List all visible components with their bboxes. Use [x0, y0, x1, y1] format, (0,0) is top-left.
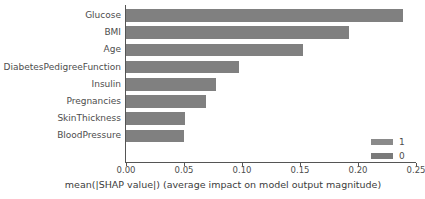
y-tick-label-insulin: Insulin: [0, 76, 121, 93]
x-tick-label-5: 0.25: [407, 165, 425, 175]
table-row: [126, 24, 416, 41]
table-row: [126, 7, 416, 24]
legend: 1 0: [371, 136, 417, 164]
legend-item-0[interactable]: 0: [371, 150, 417, 162]
legend-label-1: 1: [399, 138, 405, 147]
bar-bmi: [126, 26, 349, 39]
legend-swatch-1: [371, 139, 393, 145]
table-row: [126, 110, 416, 127]
legend-label-0: 0: [399, 152, 405, 161]
y-tick-label-diabetespedigreefunction: DiabetesPedigreeFunction: [0, 59, 121, 76]
x-tick-label-2: 0.10: [233, 165, 252, 175]
x-tick-label-4: 0.20: [349, 165, 368, 175]
table-row: [126, 93, 416, 110]
bar-bloodpressure: [126, 130, 184, 143]
bar-glucose: [126, 9, 403, 22]
y-tick-label-skinthickness: SkinThickness: [0, 110, 121, 127]
y-tick-label-age: Age: [0, 41, 121, 58]
bar-skinthickness: [126, 112, 185, 125]
x-axis-title-text: mean(|SHAP value|) (average impact on mo…: [65, 179, 381, 190]
table-row: [126, 41, 416, 58]
y-tick-label-glucose: Glucose: [0, 7, 121, 24]
bar-insulin: [126, 78, 216, 91]
legend-item-1[interactable]: 1: [371, 136, 417, 148]
x-tick-label-1: 0.05: [175, 165, 194, 175]
x-axis-tick-labels: 0.000.050.100.150.200.25: [0, 165, 424, 177]
y-tick-label-bmi: BMI: [0, 24, 121, 41]
table-row: [126, 76, 416, 93]
y-axis-tick-labels: Glucose BMI Age DiabetesPedigreeFunction…: [0, 7, 121, 162]
bar-age: [126, 44, 303, 57]
table-row: [126, 59, 416, 76]
y-tick-label-pregnancies: Pregnancies: [0, 93, 121, 110]
legend-swatch-0: [371, 153, 393, 159]
bar-pregnancies: [126, 95, 206, 108]
x-tick-label-3: 0.15: [291, 165, 310, 175]
x-axis-title: mean(|SHAP value|) (average impact on mo…: [0, 179, 424, 190]
y-tick-label-bloodpressure: BloodPressure: [0, 127, 121, 144]
bar-diabetespedigreefunction: [126, 61, 239, 74]
x-tick-label-0: 0.00: [117, 165, 136, 175]
